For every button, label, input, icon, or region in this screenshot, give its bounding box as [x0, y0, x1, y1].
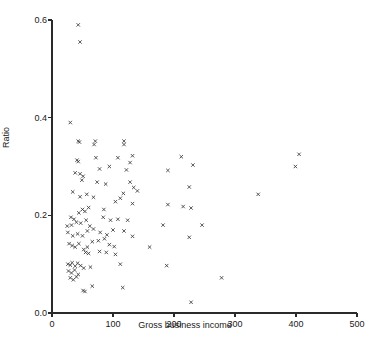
data-point	[79, 221, 82, 224]
data-point	[83, 210, 86, 213]
data-point	[191, 163, 194, 166]
data-point	[87, 206, 90, 209]
data-point	[126, 219, 129, 222]
x-axis-ticks	[52, 313, 357, 317]
data-point	[102, 208, 105, 211]
data-point	[125, 168, 128, 171]
data-point	[95, 180, 98, 183]
data-point	[131, 202, 134, 205]
data-point	[82, 266, 85, 269]
data-point	[79, 264, 82, 267]
data-point	[102, 216, 105, 219]
data-point	[98, 231, 101, 234]
data-point	[180, 155, 183, 158]
y-tick-label: 0.0	[22, 309, 47, 318]
data-point	[97, 239, 100, 242]
data-point	[73, 268, 76, 271]
data-point	[122, 229, 125, 232]
data-point	[119, 262, 122, 265]
y-tick-label: 0.4	[22, 113, 47, 122]
data-point	[104, 182, 107, 185]
data-point	[87, 252, 90, 255]
data-point	[114, 200, 117, 203]
data-point	[297, 153, 300, 156]
scatter-chart-figure: 0.00.20.40.6 0100200300400500 Gross busi…	[0, 0, 370, 340]
data-point	[166, 169, 169, 172]
data-point	[78, 40, 81, 43]
data-point	[136, 189, 139, 192]
data-point	[108, 243, 111, 246]
data-point	[71, 190, 74, 193]
data-point	[200, 223, 203, 226]
data-point	[131, 154, 134, 157]
data-point	[85, 193, 88, 196]
data-point	[84, 251, 87, 254]
data-point	[86, 245, 89, 248]
data-point	[98, 167, 101, 170]
data-point	[116, 218, 119, 221]
x-axis-title: Gross business income	[0, 321, 370, 330]
data-point	[69, 276, 72, 279]
data-point	[84, 219, 87, 222]
data-point	[77, 23, 80, 26]
data-point	[188, 185, 191, 188]
data-point	[109, 219, 112, 222]
data-point	[92, 227, 95, 230]
data-point	[92, 143, 95, 146]
data-point	[72, 278, 75, 281]
data-point	[81, 175, 84, 178]
data-point-markers	[66, 23, 301, 304]
data-point	[69, 121, 72, 124]
y-axis-title: Ratio	[2, 127, 11, 148]
y-axis-ticks	[48, 20, 52, 313]
data-point	[76, 232, 79, 235]
data-point	[78, 172, 81, 175]
data-point	[81, 234, 84, 237]
data-point	[69, 216, 72, 219]
data-point	[113, 245, 116, 248]
data-point	[73, 171, 76, 174]
data-point	[77, 211, 80, 214]
data-point	[128, 180, 131, 183]
data-point	[131, 235, 134, 238]
data-point	[132, 186, 135, 189]
data-point	[70, 271, 73, 274]
data-point	[91, 284, 94, 287]
y-tick-label: 0.2	[22, 211, 47, 220]
data-point	[75, 220, 78, 223]
data-point	[92, 196, 95, 199]
data-point	[121, 286, 124, 289]
data-point	[108, 165, 111, 168]
data-point	[161, 223, 164, 226]
data-point	[148, 245, 151, 248]
data-point	[105, 251, 108, 254]
data-point	[116, 156, 119, 159]
plot-canvas	[0, 0, 370, 340]
data-point	[181, 205, 184, 208]
data-point	[188, 236, 191, 239]
data-point	[88, 224, 91, 227]
data-point	[67, 269, 70, 272]
data-point	[220, 276, 223, 279]
data-point	[103, 237, 106, 240]
data-point	[165, 264, 168, 267]
data-point	[294, 165, 297, 168]
y-tick-label: 0.6	[22, 16, 47, 25]
data-point	[66, 224, 69, 227]
data-point	[94, 156, 97, 159]
data-point	[66, 231, 69, 234]
data-point	[105, 233, 108, 236]
data-point	[189, 301, 192, 304]
data-point	[122, 192, 125, 195]
data-point	[80, 178, 83, 181]
data-point	[67, 242, 70, 245]
data-point	[189, 206, 192, 209]
data-point	[89, 265, 92, 268]
data-point	[256, 193, 259, 196]
data-point	[77, 160, 80, 163]
data-point	[119, 197, 122, 200]
data-point	[122, 139, 125, 142]
data-point	[98, 250, 101, 253]
data-point	[77, 242, 80, 245]
data-point	[94, 139, 97, 142]
